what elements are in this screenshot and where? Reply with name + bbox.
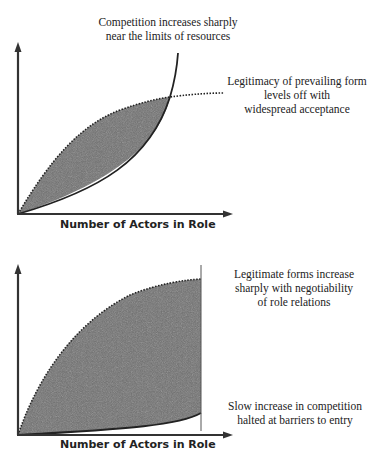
annotation-line: near the limits of resources <box>88 29 248 43</box>
top-x-arrow-icon <box>223 211 233 218</box>
annotation-line: halted at barriers to entry <box>222 413 368 427</box>
bottom-x-axis-label: Number of Actors in Role <box>60 438 216 451</box>
annotation-line: levels off with <box>222 88 372 102</box>
bottom-legitimacy-annotation: Legitimate forms increase sharply with n… <box>226 267 362 309</box>
bottom-competition-annotation: Slow increase in competition halted at b… <box>222 399 368 427</box>
annotation-line: of role relations <box>226 295 362 309</box>
top-x-axis-label: Number of Actors in Role <box>60 218 216 231</box>
top-y-arrow-icon <box>15 42 22 52</box>
diagram-canvas <box>0 0 373 462</box>
top-competition-annotation: Competition increases sharply near the l… <box>88 15 248 43</box>
bottom-x-arrow-icon <box>223 432 233 439</box>
top-legitimacy-annotation: Legitimacy of prevailing form levels off… <box>222 74 372 116</box>
annotation-line: Competition increases sharply <box>88 15 248 29</box>
annotation-line: widespread acceptance <box>222 102 372 116</box>
top-shaded-region <box>18 97 170 214</box>
annotation-line: sharply with negotiability <box>226 281 362 295</box>
bottom-y-arrow-icon <box>15 264 22 274</box>
bottom-chart <box>15 264 234 439</box>
annotation-line: Legitimacy of prevailing form <box>222 74 372 88</box>
top-chart <box>15 42 234 218</box>
annotation-line: Legitimate forms increase <box>226 267 362 281</box>
bottom-shaded-region <box>18 279 201 435</box>
annotation-line: Slow increase in competition <box>222 399 368 413</box>
